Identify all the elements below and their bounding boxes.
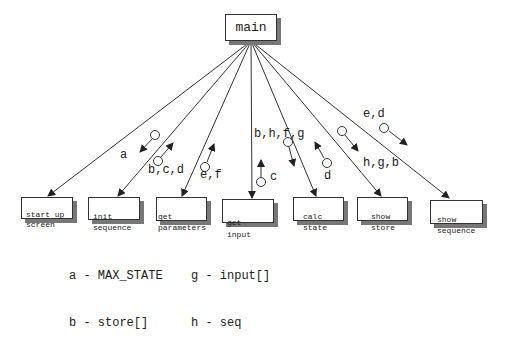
module-init-sequence: init sequence [88,197,140,220]
couple-label-bhfg: b,h,f,g [254,127,304,141]
legend-entry: g - input[] [191,269,270,285]
module-label: get input [227,218,251,239]
module-label: show store [371,212,395,232]
module-calc-state: calc state [293,197,344,221]
couple-d-circle [323,159,332,168]
module-label: init sequence [93,212,131,232]
module-label: calc state [303,212,327,232]
couple-label-ed: e,d [363,107,385,121]
couple-hgb-arrow [345,135,358,151]
couple-bhfg-arrow [289,147,294,166]
couple-ef-arrow [207,144,214,162]
module-main: main [225,14,277,41]
couple-ed-circle [380,124,389,133]
module-label: get parameters [158,212,206,232]
module-show-store: show store [357,197,408,221]
module-label: show sequence [437,215,475,235]
module-get-input: get input [222,199,274,223]
module-start-up-screen: start up screen [21,197,73,219]
couple-bcd-arrow [161,143,173,157]
legend-entry: a - MAX_STATE [69,269,163,285]
couple-a-arrow [140,139,152,152]
legend-entry: h - seq [191,316,270,332]
couple-label-ef: e,f [200,168,222,182]
couple-label-c: c [270,170,277,184]
legend-entry: b - store[] [69,316,163,332]
couple-ed-arrow [389,131,407,145]
couple-label-bcd: b,c,d [148,163,184,177]
couple-d-arrow [315,142,324,158]
couple-a-circle [151,131,160,140]
module-main-label: main [235,20,266,35]
module-show-sequence: show sequence [430,200,483,224]
call-line-get-input [251,41,252,198]
legend-column-2: g - input[] h - seq [191,238,270,342]
couple-c-circle [257,178,266,187]
couple-label-hgb: h,g,b [363,156,399,170]
couple-label-a: a [120,148,127,162]
couple-label-d: d [324,169,331,183]
module-get-parameters: get parameters [156,197,207,221]
couple-hgb-circle [338,127,347,136]
legend-column-1: a - MAX_STATE b - store[] c - input[] d … [69,238,163,342]
call-line-init-sequence [118,41,251,196]
call-line-show-sequence [251,41,449,198]
